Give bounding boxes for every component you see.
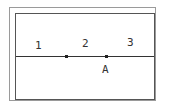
region-label-2: 2 (82, 38, 89, 49)
horizontal-line (16, 56, 154, 57)
region-label-3: 3 (127, 37, 134, 48)
point-dot-a (105, 55, 108, 58)
point-dot-1 (65, 55, 68, 58)
region-label-1: 1 (35, 40, 42, 51)
point-label-a: A (102, 64, 109, 75)
